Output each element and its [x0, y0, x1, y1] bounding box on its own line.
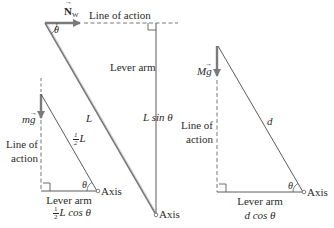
lever-arm-expression: d cos θ — [232, 210, 288, 221]
distance-label: d — [267, 116, 273, 127]
angle-label: θ — [288, 181, 293, 191]
angle-arc — [293, 184, 298, 193]
right-angle-marker — [219, 184, 226, 192]
half-ladder-line — [41, 94, 97, 191]
ladder-line — [45, 23, 155, 213]
angle-arc — [87, 183, 92, 192]
axis-label: Axis — [159, 209, 180, 220]
ladder-length-label: L — [86, 113, 92, 124]
vector-arrow-glyph: → — [205, 61, 212, 68]
angle-label: θ — [82, 180, 87, 190]
axis-point — [96, 189, 100, 193]
distance-line — [218, 46, 303, 192]
lever-arm-expression: L sin θ — [143, 112, 173, 123]
angle-label: θ — [54, 25, 59, 35]
axis-point — [302, 190, 306, 194]
line-of-action-label: Line of action — [175, 120, 213, 145]
axis-point — [154, 213, 158, 217]
lever-arm-label: Lever arm — [232, 196, 288, 207]
line-of-action-label: Line of action — [89, 10, 151, 21]
half-length-label: 12L — [73, 132, 86, 147]
axis-label: Axis — [101, 186, 122, 197]
axis-label: Axis — [307, 187, 328, 198]
line-of-action-label: Line of action — [2, 139, 38, 164]
lever-arm-label: Lever arm — [44, 195, 94, 206]
vector-arrow-glyph: → — [30, 110, 37, 117]
right-angle-marker — [43, 183, 50, 191]
lever-arm-label: Lever arm — [110, 62, 156, 73]
weight-diagram — [41, 78, 100, 193]
normal-force-label: → NW — [64, 6, 79, 19]
right-angle-marker — [148, 23, 156, 30]
lever-arm-expression: 12L cos θ — [53, 206, 91, 221]
person-weight-diagram — [217, 46, 306, 194]
